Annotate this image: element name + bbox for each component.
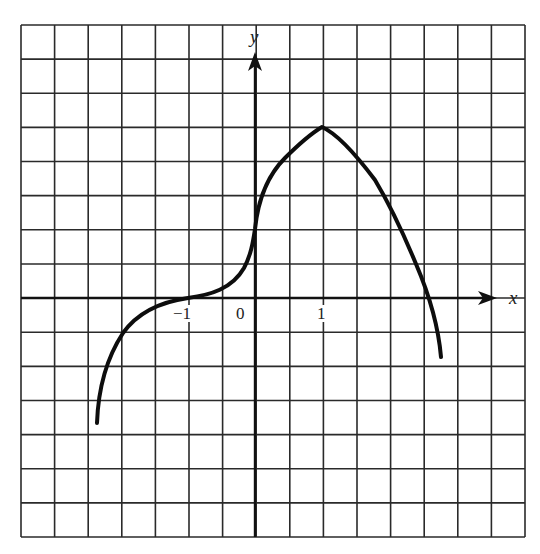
y-axis-label: y	[250, 27, 258, 46]
tick-label-0: 0	[235, 305, 246, 322]
graph-canvas	[0, 0, 540, 554]
x-axis-label: x	[509, 288, 517, 307]
grid	[21, 25, 525, 537]
tick-label-1: 1	[316, 305, 327, 322]
tick-label-neg1: −1	[172, 305, 192, 322]
function-curve	[97, 127, 441, 423]
